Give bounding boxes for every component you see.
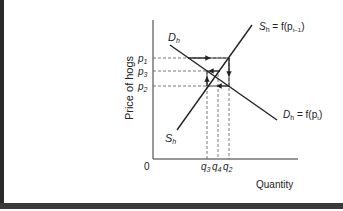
supply-curve [177,25,252,130]
demand-curve [170,45,277,120]
cobweb-diagram: Price of hogs p1 p3 p2 q3 q4 q2 0 Quanti… [0,0,343,211]
y-axis-label: Price of hogs [123,55,135,120]
quantity-label-q2: q2 [223,161,233,173]
supply-label-bottom: Sh [165,132,176,145]
supply-label-top: Sh = f(pt−1) [259,21,305,33]
price-label-p1: p1 [137,53,148,65]
demand-label-bottom: Dh = f(pt) [283,109,322,121]
quantity-label-q4: q4 [212,161,222,173]
origin-label: 0 [144,161,150,172]
quantity-label-q3: q3 [201,161,211,173]
x-axis-label: Quantity [256,179,293,190]
price-label-p3: p3 [137,66,148,78]
price-label-p2: p2 [137,81,148,93]
demand-label-top: Dh [168,31,180,44]
